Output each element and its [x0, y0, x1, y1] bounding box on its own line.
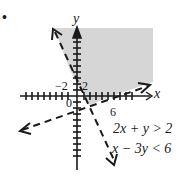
y-axis — [73, 27, 81, 170]
x-axis-label: x — [154, 87, 160, 101]
tick-label-6: 6 — [110, 106, 116, 118]
shaded-solution-region — [54, 28, 153, 105]
origin-label: 0 — [66, 97, 72, 109]
tick-label-neg2: −2 — [55, 80, 68, 92]
inequality-1-label: 2x + y > 2 — [113, 122, 172, 136]
tick-label-2: 2 — [82, 80, 88, 92]
inequality-2-label: x − 3y < 6 — [112, 142, 171, 156]
item-bullet: • — [2, 11, 7, 25]
inequality-graph: • y x −2 2 0 6 2x + y > 2 x − 3y < 6 — [0, 0, 184, 176]
y-axis-label: y — [73, 12, 79, 26]
